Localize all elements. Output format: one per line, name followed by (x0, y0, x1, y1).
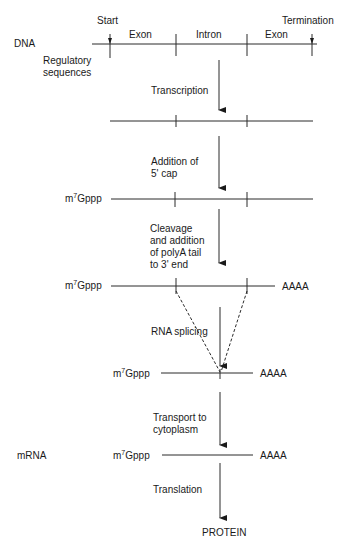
step-transport-line1: Transport to (153, 412, 207, 423)
cap-label-spliced: m7Gppp (113, 368, 150, 379)
protein-label: PROTEIN (202, 527, 246, 538)
exon-1-label: Exon (129, 29, 152, 40)
step-transport-line2: cytoplasm (153, 424, 198, 435)
step-capping-line2: 5' cap (151, 168, 177, 179)
step-transcription: Transcription (151, 85, 208, 96)
polya-label-3: AAAA (260, 450, 287, 461)
polya-label-2: AAAA (260, 368, 287, 379)
diagram-lines (0, 0, 350, 553)
step-capping-line1: Addition of (151, 156, 198, 167)
cap-label-mrna: m7Gppp (113, 450, 150, 461)
start-label: Start (97, 15, 118, 26)
cap-label-polya: m7Gppp (65, 280, 102, 291)
step-polya-line1: Cleavage (150, 223, 192, 234)
step-polya-line4: to 3' end (150, 259, 188, 270)
dna-label: DNA (14, 38, 35, 49)
cap-label-capped: m7Gppp (65, 193, 102, 204)
exon-2-label: Exon (265, 29, 288, 40)
step-translation: Translation (153, 484, 202, 495)
step-splicing: RNA splicing (151, 326, 208, 337)
step-polya-line3: of polyA tail (150, 247, 201, 258)
regulatory-label-line1: Regulatory (43, 55, 91, 66)
mrna-label: mRNA (17, 450, 46, 461)
intron-label: Intron (196, 29, 222, 40)
termination-label: Termination (282, 15, 334, 26)
step-polya-line2: and addition (150, 235, 205, 246)
polya-label-1: AAAA (282, 281, 309, 292)
regulatory-label-line2: sequences (43, 67, 91, 78)
